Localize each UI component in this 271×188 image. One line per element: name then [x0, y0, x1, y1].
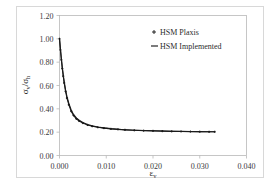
y-tick-label: 1.20 [40, 12, 54, 21]
x-tick-label: 0.030 [191, 162, 209, 171]
y-axis-ticks: 0.000.200.400.600.801.001.20 [40, 12, 60, 161]
y-tick-label: 0.00 [40, 152, 54, 161]
series-line-hsm-implemented [60, 38, 215, 131]
series-line-hsm-plaxis [60, 39, 215, 132]
chart-legend: HSM PlaxisHSM Implemented [151, 28, 222, 51]
legend-item: HSM Implemented [151, 42, 222, 51]
y-axis-sub-h: h [24, 75, 31, 79]
data-series-layer [58, 38, 215, 133]
y-tick-label: 0.60 [40, 82, 54, 91]
x-axis-sub-v: v [153, 172, 157, 179]
y-tick-label: 1.00 [40, 35, 54, 44]
legend-label: HSM Implemented [160, 42, 222, 51]
chart-canvas: 0.000.200.400.600.801.001.20 0.0000.0100… [0, 0, 271, 188]
plot-frame [60, 16, 247, 156]
x-tick-label: 0.040 [238, 162, 256, 171]
x-tick-label: 0.010 [97, 162, 115, 171]
y-tick-label: 0.20 [40, 128, 54, 137]
svg-text:σv/σh: σv/σh [20, 75, 31, 94]
y-axis-title: σv/σh [20, 75, 31, 94]
figure-container: 0.000.200.400.600.801.001.20 0.0000.0100… [0, 0, 271, 188]
y-tick-label: 0.80 [40, 58, 54, 67]
legend-label: HSM Plaxis [160, 28, 199, 37]
legend-item: HSM Plaxis [152, 28, 199, 37]
y-tick-label: 0.40 [40, 105, 54, 114]
x-tick-label: 0.000 [51, 162, 69, 171]
